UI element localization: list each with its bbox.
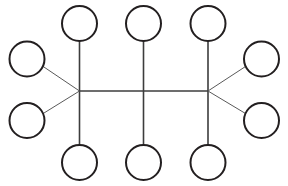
node-bottom-middle[interactable] <box>126 145 161 180</box>
edge-hubright-rightlower <box>208 91 246 114</box>
node-bottom-left[interactable] <box>62 145 97 180</box>
node-left-lower[interactable] <box>10 103 45 138</box>
edge-layer <box>43 41 245 145</box>
edge-hubright-rightupper <box>208 67 246 92</box>
edge-hubleft-leftupper <box>43 67 79 92</box>
node-top-middle[interactable] <box>126 6 161 41</box>
node-right-upper[interactable] <box>244 42 279 77</box>
node-left-upper[interactable] <box>10 42 45 77</box>
node-top-left[interactable] <box>62 6 97 41</box>
network-graph <box>0 0 288 186</box>
edge-hubleft-leftlower <box>43 91 79 114</box>
diagram-canvas <box>0 0 288 186</box>
node-bottom-right[interactable] <box>191 145 226 180</box>
node-top-right[interactable] <box>191 6 226 41</box>
node-right-lower[interactable] <box>244 103 279 138</box>
